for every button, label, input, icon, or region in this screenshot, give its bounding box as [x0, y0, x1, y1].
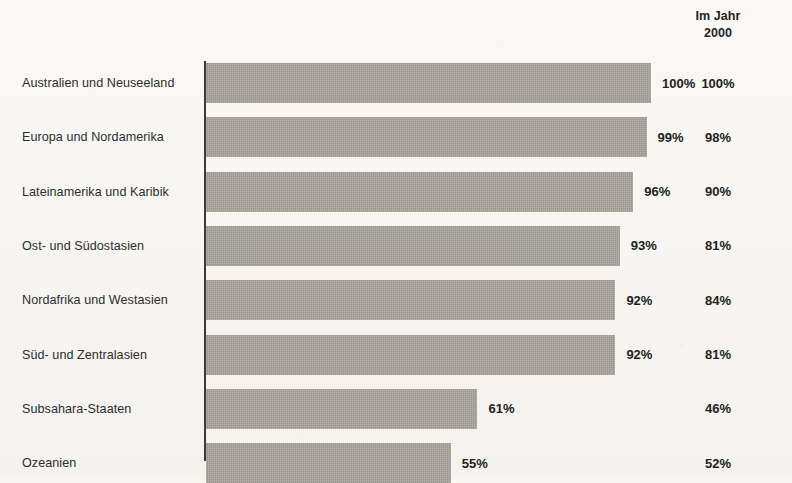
- year-2000-value: 52%: [668, 443, 768, 483]
- table-row: Lateinamerika und Karibik96%90%: [0, 172, 792, 212]
- bar: [206, 226, 620, 266]
- bar: [206, 172, 633, 212]
- table-row: Ost- und Südostasien93%81%: [0, 226, 792, 266]
- table-row: Süd- und Zentralasien92%81%: [0, 335, 792, 375]
- bar: [206, 63, 651, 103]
- bar: [206, 443, 451, 483]
- year-2000-value: 81%: [668, 335, 768, 375]
- bar: [206, 117, 647, 157]
- year-2000-value: 46%: [668, 389, 768, 429]
- bar-value-label: 61%: [488, 389, 514, 429]
- category-label: Subsahara-Staaten: [0, 389, 182, 429]
- table-row: Subsahara-Staaten61%46%: [0, 389, 792, 429]
- year-2000-value: 98%: [668, 117, 768, 157]
- category-label: Lateinamerika und Karibik: [0, 172, 182, 212]
- category-label: Ost- und Südostasien: [0, 226, 182, 266]
- year-2000-value: 84%: [668, 280, 768, 320]
- category-label: Australien und Neuseeland: [0, 63, 182, 103]
- table-row: Ozeanien55%52%: [0, 443, 792, 483]
- year-2000-value: 81%: [668, 226, 768, 266]
- bar: [206, 389, 477, 429]
- table-row: Europa und Nordamerika99%98%: [0, 117, 792, 157]
- bar: [206, 335, 615, 375]
- bar-value-label: 92%: [626, 280, 652, 320]
- column-header-im-jahr-2000: Im Jahr 2000: [668, 8, 768, 42]
- column-header-line2: 2000: [668, 25, 768, 42]
- bar: [206, 280, 615, 320]
- table-row: Nordafrika und Westasien92%84%: [0, 280, 792, 320]
- category-label: Nordafrika und Westasien: [0, 280, 182, 320]
- year-2000-value: 100%: [668, 63, 768, 103]
- bar-value-label: 55%: [462, 443, 488, 483]
- table-row: Australien und Neuseeland100%100%: [0, 63, 792, 103]
- category-label: Europa und Nordamerika: [0, 117, 182, 157]
- bar-value-label: 93%: [631, 226, 657, 266]
- bar-value-label: 96%: [644, 172, 670, 212]
- column-header-line1: Im Jahr: [668, 8, 768, 25]
- category-label: Ozeanien: [0, 443, 182, 483]
- category-label: Süd- und Zentralasien: [0, 335, 182, 375]
- bar-value-label: 92%: [626, 335, 652, 375]
- year-2000-value: 90%: [668, 172, 768, 212]
